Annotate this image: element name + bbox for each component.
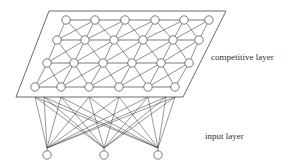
competitive-node xyxy=(185,59,193,67)
competitive-node xyxy=(151,16,159,24)
competitive-node xyxy=(180,16,188,24)
competitive-node xyxy=(31,83,39,91)
competitive-node xyxy=(53,36,61,44)
competitive-node xyxy=(110,36,118,44)
competitive-node xyxy=(205,16,213,24)
input-connections xyxy=(35,97,175,155)
competitive-node xyxy=(169,36,177,44)
input-node xyxy=(100,151,108,159)
input-layer-label: input layer xyxy=(205,131,244,141)
som-network-diagram xyxy=(0,0,297,168)
competitive-node xyxy=(195,36,203,44)
competitive-node xyxy=(85,83,93,91)
competitive-node xyxy=(70,59,78,67)
competitive-node xyxy=(171,83,179,91)
competitive-node xyxy=(91,16,99,24)
competitive-node xyxy=(115,83,123,91)
competitive-node xyxy=(81,36,89,44)
competitive-node xyxy=(128,59,136,67)
competitive-node xyxy=(144,83,152,91)
competitive-node xyxy=(139,36,147,44)
competitive-node xyxy=(157,59,165,67)
input-node xyxy=(154,151,162,159)
competitive-node xyxy=(121,16,129,24)
input-node xyxy=(43,151,51,159)
input-layer-nodes xyxy=(43,151,162,159)
competitive-node xyxy=(57,83,65,91)
competitive-node xyxy=(99,59,107,67)
competitive-layer-label: competitive layer xyxy=(211,52,274,62)
competitive-node xyxy=(62,16,70,24)
competitive-node xyxy=(43,59,51,67)
